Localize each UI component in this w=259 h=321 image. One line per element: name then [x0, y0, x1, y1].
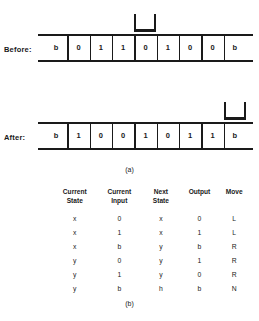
tape-cell: 0	[201, 36, 223, 60]
cell-output: 0	[181, 269, 219, 283]
cell-current-input: b	[98, 283, 142, 297]
tape-rail-bottom	[38, 60, 253, 62]
cell-current-input: 0	[98, 213, 142, 227]
tape-head-icon	[224, 102, 246, 120]
cell-current-state: y	[52, 283, 98, 297]
cell-current-input: 0	[98, 255, 142, 269]
cell-next-state: h	[141, 283, 181, 297]
cell-output: 1	[181, 255, 219, 269]
panel-caption-b: (b)	[0, 300, 259, 307]
cell-current-input: 1	[98, 227, 142, 241]
cell-move: L	[218, 227, 250, 241]
tape-cell: 1	[90, 36, 112, 60]
table-row: y 0 y 1 R	[52, 255, 250, 269]
cell-current-state: x	[52, 227, 98, 241]
tape-head-icon	[134, 14, 156, 32]
cell-output: b	[181, 283, 219, 297]
table-row: y b h b N	[52, 283, 250, 297]
header-line: Move	[218, 188, 250, 197]
tape-cell: b	[224, 36, 246, 60]
tape-cell: b	[45, 124, 67, 148]
cell-next-state: x	[141, 227, 181, 241]
cell-move: R	[218, 269, 250, 283]
column-header-next-state: Next State	[141, 188, 181, 213]
cell-move: R	[218, 241, 250, 255]
tape-cell: 1	[112, 36, 134, 60]
tape-diagram-after: After: b 1 0 0 1 0 1 1 b	[0, 100, 259, 162]
tape-cell: 0	[112, 124, 134, 148]
tape-cell: 0	[90, 124, 112, 148]
column-header-move: Move	[218, 188, 250, 213]
tape-cell: 0	[179, 36, 201, 60]
table-header-row: Current State Current Input Next State O…	[52, 188, 250, 213]
tape-cell: 0	[67, 36, 89, 60]
transition-table: Current State Current Input Next State O…	[52, 188, 250, 297]
cell-current-state: x	[52, 241, 98, 255]
tape-cell: 0	[157, 124, 179, 148]
tape-cell: 1	[179, 124, 201, 148]
header-line: Current	[52, 188, 98, 197]
cell-move: N	[218, 283, 250, 297]
table-row: x 0 x 0 L	[52, 213, 250, 227]
column-header-current-input: Current Input	[98, 188, 142, 213]
tape-cell: b	[224, 124, 246, 148]
table-row: y 1 y 0 R	[52, 269, 250, 283]
cell-move: L	[218, 213, 250, 227]
cell-output: 1	[181, 227, 219, 241]
tape-rail-bottom	[38, 148, 253, 150]
tape-cell: 0	[134, 36, 156, 60]
column-header-current-state: Current State	[52, 188, 98, 213]
cell-current-state: y	[52, 255, 98, 269]
header-line: State	[141, 197, 181, 206]
tape-label-after: After:	[4, 134, 25, 142]
cell-current-state: y	[52, 269, 98, 283]
cell-output: 0	[181, 213, 219, 227]
cell-current-input: b	[98, 241, 142, 255]
tape-label-before: Before:	[4, 46, 32, 54]
header-line: Next	[141, 188, 181, 197]
cell-next-state: y	[141, 241, 181, 255]
header-line: State	[52, 197, 98, 206]
tape-cell: 1	[134, 124, 156, 148]
cell-next-state: y	[141, 269, 181, 283]
tape-cell: 1	[67, 124, 89, 148]
cell-next-state: x	[141, 213, 181, 227]
tape-cell: 1	[201, 124, 223, 148]
header-line: Current	[98, 188, 142, 197]
header-line: Input	[98, 197, 142, 206]
cell-move: R	[218, 255, 250, 269]
tape-cell-row-after: b 1 0 0 1 0 1 1 b	[45, 124, 246, 148]
cell-output: b	[181, 241, 219, 255]
table-row: x b y b R	[52, 241, 250, 255]
tape-diagram-before: Before: b 0 1 1 0 1 0 0 b	[0, 12, 259, 74]
table-row: x 1 x 1 L	[52, 227, 250, 241]
cell-current-state: x	[52, 213, 98, 227]
cell-next-state: y	[141, 255, 181, 269]
header-line: Output	[181, 188, 219, 197]
cell-current-input: 1	[98, 269, 142, 283]
tape-cell: 1	[157, 36, 179, 60]
panel-caption-a: (a)	[0, 166, 259, 173]
tape-cell: b	[45, 36, 67, 60]
column-header-output: Output	[181, 188, 219, 213]
tape-cell-row-before: b 0 1 1 0 1 0 0 b	[45, 36, 246, 60]
